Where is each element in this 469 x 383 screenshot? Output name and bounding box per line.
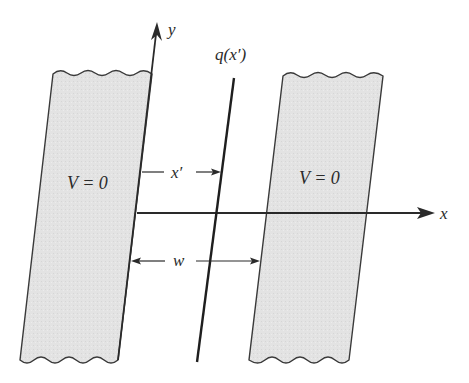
line-charge-label: q(x′) (215, 45, 246, 64)
left-slab-label: V = 0 (67, 173, 108, 193)
line-charge-q (197, 78, 234, 362)
right-slab (249, 73, 383, 364)
x-axis-label: x (439, 204, 448, 223)
y-axis-label: y (166, 20, 176, 39)
left-slab (20, 71, 152, 364)
y-axis-arrowhead-icon (151, 22, 162, 41)
right-slab-label: V = 0 (299, 168, 340, 188)
diagram-canvas: y x q(x′) V = 0 V = 0 x′ w (0, 0, 469, 383)
x-prime-label: x′ (170, 163, 183, 182)
width-label: w (173, 251, 185, 270)
w-dimension (131, 258, 260, 265)
